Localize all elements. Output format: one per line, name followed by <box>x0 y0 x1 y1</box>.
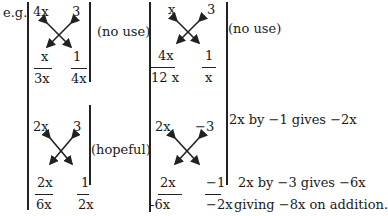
fraction-bar <box>151 67 175 68</box>
bottom-left-numerator: x <box>41 50 48 64</box>
explanation-line-2: 2x by −3 gives −6x <box>238 176 366 190</box>
bottom-right-numerator: −1 <box>206 176 225 190</box>
bottom-right-denominator: 4x <box>71 72 87 86</box>
divider-bottom-right-right <box>226 105 228 185</box>
cross-arrows-icon <box>47 135 75 167</box>
comment: (no use) <box>97 25 150 39</box>
fraction-bar <box>71 68 87 69</box>
bottom-left-numerator: 2x <box>37 176 53 190</box>
eg-label: e.g. <box>3 6 27 20</box>
cross-arrows-icon <box>174 18 202 46</box>
divider-left <box>27 2 29 210</box>
comment: (hopeful) <box>91 143 151 157</box>
bottom-right-numerator: 1 <box>205 49 213 63</box>
bottom-left-numerator: 2x <box>160 176 176 190</box>
top-left-term: 2x <box>33 120 49 134</box>
bottom-left-denominator: 3x <box>34 72 50 86</box>
fraction-bar <box>35 194 53 195</box>
bottom-left-denominator: -6x <box>150 198 170 212</box>
bottom-right-denominator: −2x <box>206 198 233 212</box>
bottom-left-denominator: 12 x <box>151 71 179 85</box>
top-right-term: 3 <box>207 3 215 17</box>
bottom-right-denominator: x <box>205 71 212 85</box>
fraction-bar <box>202 67 216 68</box>
fraction-bar <box>34 68 52 69</box>
top-right-term: −3 <box>195 120 214 134</box>
cross-arrows-icon <box>44 20 74 50</box>
top-left-term: 2x <box>155 120 171 134</box>
fraction-bar <box>158 194 182 195</box>
bottom-right-denominator: 2x <box>78 198 94 212</box>
bottom-left-numerator: 4x <box>158 49 174 63</box>
bottom-right-numerator: 1 <box>73 50 81 64</box>
top-right-term: 3 <box>72 5 80 19</box>
top-right-term: 3 <box>73 120 81 134</box>
bottom-right-numerator: 1 <box>81 176 89 190</box>
divider-top-left-right <box>89 2 91 82</box>
explanation-line-1: 2x by −1 gives −2x <box>229 113 357 127</box>
fraction-bar <box>77 194 89 195</box>
cross-arrows-icon <box>172 135 202 167</box>
top-left-term: 4x <box>33 5 49 19</box>
bottom-left-denominator: 6x <box>36 198 52 212</box>
comment: (no use) <box>228 22 281 36</box>
fraction-bar <box>205 194 221 195</box>
top-left-term: x <box>168 3 175 17</box>
explanation-line-3: giving −8x on addition. <box>234 198 388 212</box>
divider-top-right-right <box>226 2 228 109</box>
